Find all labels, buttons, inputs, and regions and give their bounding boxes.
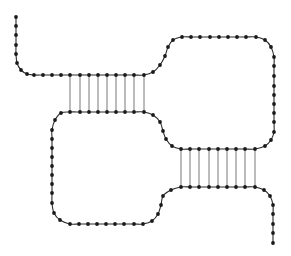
nucleotide-bead	[150, 219, 154, 223]
nucleotide-bead	[19, 68, 23, 72]
nucleotide-bead	[234, 147, 238, 151]
nucleotide-bead	[268, 194, 272, 198]
nucleotide-bead	[50, 182, 54, 186]
nucleotide-bead	[156, 212, 160, 216]
nucleotide-bead	[170, 144, 174, 148]
nucleotide-bead	[243, 185, 247, 189]
nucleotide-bead	[171, 38, 175, 42]
nucleotide-bead	[96, 110, 100, 114]
nucleotide-bead	[50, 155, 54, 159]
nucleotide-bead	[14, 15, 18, 19]
nucleotide-bead	[14, 24, 18, 28]
nucleotide-bead	[104, 222, 108, 226]
nucleotide-bead	[151, 70, 155, 74]
nucleotide-bead	[123, 73, 127, 77]
nucleotide-bead	[271, 212, 275, 216]
nucleotide-bead	[272, 93, 276, 97]
nucleotide-bead	[180, 35, 184, 39]
nucleotide-bead	[188, 185, 192, 189]
nucleotide-bead	[225, 185, 229, 189]
nucleotide-bead	[114, 110, 118, 114]
nucleotide-bead	[272, 74, 276, 78]
nucleotide-bead	[114, 73, 118, 77]
nucleotide-bead	[169, 188, 173, 192]
nucleotide-bead	[197, 185, 201, 189]
nucleotide-bead	[179, 147, 183, 151]
nucleotide-bead	[269, 45, 273, 49]
nucleotide-bead	[189, 35, 193, 39]
nucleotide-bead	[142, 110, 146, 114]
nucleotide-bead	[272, 84, 276, 88]
nucleotide-bead	[14, 43, 18, 47]
nucleotide-bead	[263, 144, 267, 148]
nucleotide-bead	[158, 120, 162, 124]
nucleotide-bead	[96, 73, 100, 77]
nucleotide-bead	[272, 111, 276, 115]
nucleotide-bead	[161, 194, 165, 198]
nucleotide-bead	[272, 120, 276, 124]
nucleotide-bead	[142, 73, 146, 77]
nucleotide-bead	[151, 113, 155, 117]
nucleotide-bead	[262, 188, 266, 192]
nucleotide-bead	[50, 164, 54, 168]
nucleotide-bead	[253, 185, 257, 189]
nucleotide-bead	[50, 146, 54, 150]
nucleotide-bead	[41, 73, 45, 77]
nucleotide-bead	[123, 110, 127, 114]
nucleotide-bead	[132, 222, 136, 226]
nucleotide-bead	[141, 222, 145, 226]
nucleotide-bead	[263, 38, 267, 42]
nucleotide-bead	[105, 73, 109, 77]
nucleotide-bead	[271, 241, 275, 245]
nucleotide-bead	[226, 35, 230, 39]
nucleotide-bead	[50, 173, 54, 177]
nucleotide-bead	[179, 185, 183, 189]
nucleotide-bead	[68, 73, 72, 77]
nucleotide-bead	[132, 73, 136, 77]
nucleotide-bead	[207, 185, 211, 189]
nucleotide-bead	[271, 203, 275, 207]
nucleotide-bead	[272, 64, 276, 68]
nucleotide-bead	[50, 201, 54, 205]
nucleotide-bead	[269, 138, 273, 142]
nucleotide-bead	[216, 185, 220, 189]
nucleotide-bead	[159, 203, 163, 207]
nucleotide-bead	[254, 35, 258, 39]
nucleotide-bead	[68, 222, 72, 226]
nucleotide-bead	[59, 111, 63, 115]
nucleotide-bead	[78, 73, 82, 77]
nucleotide-bead	[207, 147, 211, 151]
structure-diagram	[0, 0, 291, 256]
nucleotide-bead	[59, 73, 63, 77]
nucleotide-bead	[271, 231, 275, 235]
nucleotide-bead	[122, 222, 126, 226]
nucleotide-bead	[244, 35, 248, 39]
nucleotide-bead	[161, 129, 165, 133]
nucleotide-bead	[105, 110, 109, 114]
nucleotide-bead	[68, 110, 72, 114]
nucleotide-bead	[272, 102, 276, 106]
nucleotide-bead	[53, 118, 57, 122]
nucleotide-bead	[86, 222, 90, 226]
nucleotide-bead	[15, 61, 19, 65]
nucleotide-bead	[14, 33, 18, 37]
nucleotide-bead	[166, 45, 170, 49]
nucleotide-bead	[50, 191, 54, 195]
nucleotide-bead	[95, 222, 99, 226]
nucleotide-bead	[78, 110, 82, 114]
nucleotide-bead	[272, 130, 276, 134]
nucleotide-bead	[87, 110, 91, 114]
nucleotide-bead	[52, 211, 56, 215]
nucleotide-bead	[217, 35, 221, 39]
nucleotide-bead	[50, 73, 54, 77]
nucleotide-bead	[25, 72, 29, 76]
nucleotide-bead	[58, 218, 62, 222]
nucleotide-bead	[188, 147, 192, 151]
nucleotide-bead	[50, 137, 54, 141]
nucleotide-bead	[113, 222, 117, 226]
nucleotide-bead	[164, 137, 168, 141]
nucleotide-bead	[198, 35, 202, 39]
nucleotide-bead	[77, 222, 81, 226]
nucleotide-bead	[216, 147, 220, 151]
nucleotide-bead	[253, 147, 257, 151]
